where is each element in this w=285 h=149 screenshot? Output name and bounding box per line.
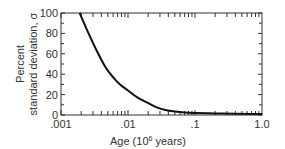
y-tick-label: 60 <box>46 48 58 60</box>
chart: Percent standard deviation, σ 0204060801… <box>0 0 285 149</box>
y-tick-label: 100 <box>40 7 58 19</box>
y-axis-title-line1: Percent <box>14 45 26 83</box>
y-tick-label: 80 <box>46 27 58 39</box>
plot-frame <box>61 13 262 115</box>
x-axis-ticks: .001.01.11.0 <box>50 13 269 130</box>
x-tick-label: .001 <box>50 118 71 130</box>
x-axis-title: Age (106 years) <box>110 135 186 147</box>
y-axis-title: Percent standard deviation, σ <box>14 12 39 115</box>
y-axis-title-line2: standard deviation, σ <box>27 12 39 115</box>
x-tick-label: .01 <box>120 118 135 130</box>
y-tick-label: 40 <box>46 68 58 80</box>
x-tick-label: .1 <box>190 118 199 130</box>
x-tick-label: 1.0 <box>254 118 269 130</box>
data-line <box>80 13 262 114</box>
y-tick-label: 20 <box>46 89 58 101</box>
